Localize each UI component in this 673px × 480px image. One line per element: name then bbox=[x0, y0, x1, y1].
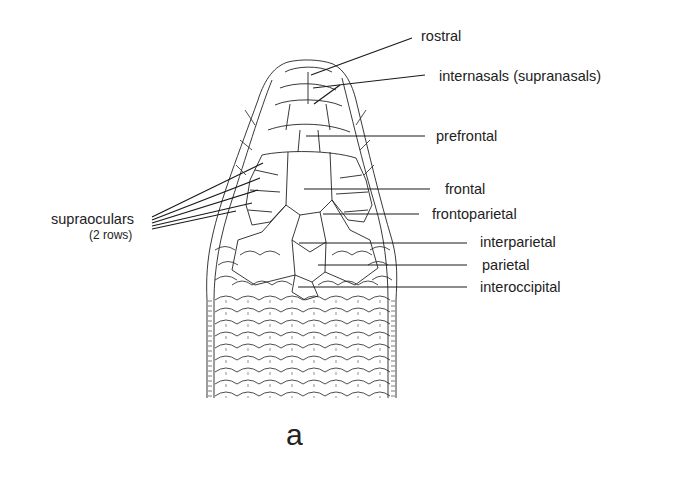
label-rostral: rostral bbox=[421, 28, 461, 44]
leader-rostral bbox=[311, 38, 412, 75]
label-frontoparietal: frontoparietal bbox=[432, 206, 517, 222]
leader-supraocular-5 bbox=[152, 211, 236, 229]
label-supraoculars-note: (2 rows) bbox=[89, 228, 132, 242]
label-interoccipital: interoccipital bbox=[480, 279, 561, 295]
figure-caption: a bbox=[286, 420, 303, 450]
label-internasals: internasals (supranasals) bbox=[439, 68, 601, 84]
label-frontal: frontal bbox=[445, 181, 485, 197]
label-supraoculars: supraoculars bbox=[51, 211, 134, 227]
leader-supraocular-1 bbox=[152, 163, 263, 217]
label-interparietal: interparietal bbox=[480, 234, 556, 250]
leader-internasals-1 bbox=[313, 75, 425, 88]
diagram-stage: rostral internasals (supranasals) prefro… bbox=[0, 0, 673, 480]
label-prefrontal: prefrontal bbox=[436, 128, 497, 144]
label-parietal: parietal bbox=[482, 257, 530, 273]
